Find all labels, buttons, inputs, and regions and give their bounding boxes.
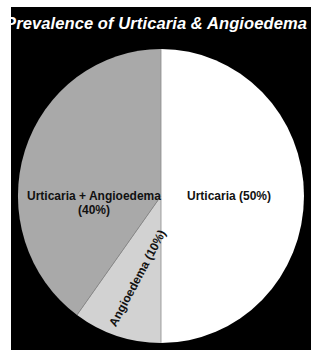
label-combo-line1: Urticaria + Angioedema [27, 189, 161, 203]
pie-chart: Urticaria (50%) Urticaria + Angioedema (… [0, 0, 312, 357]
label-combo-line2: (40%) [78, 203, 110, 217]
label-urticaria: Urticaria (50%) [187, 189, 271, 203]
